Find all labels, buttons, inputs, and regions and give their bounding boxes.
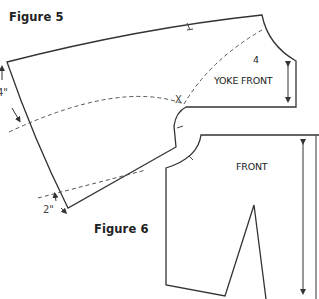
notch-mark <box>189 156 193 160</box>
front-label: FRONT <box>236 161 267 172</box>
dim-arrow-bottom-b <box>61 208 65 212</box>
yoke-front-outline <box>7 15 296 208</box>
dim-arrow-bottom-a <box>55 195 56 201</box>
dim-arrow-top-b <box>12 108 19 120</box>
front-outline <box>166 135 319 299</box>
figure-5-label: Figure 5 <box>9 10 64 24</box>
figure-6-label: Figure 6 <box>94 222 149 236</box>
dimension-4in: 4" <box>0 87 8 98</box>
pattern-diagram <box>0 0 319 299</box>
x-mark: X <box>175 94 182 105</box>
yoke-piece-number: 4 <box>253 54 259 65</box>
notch-mark <box>177 126 183 128</box>
dimension-2in: 2" <box>43 204 54 215</box>
yoke-front-label: YOKE FRONT <box>214 75 272 86</box>
